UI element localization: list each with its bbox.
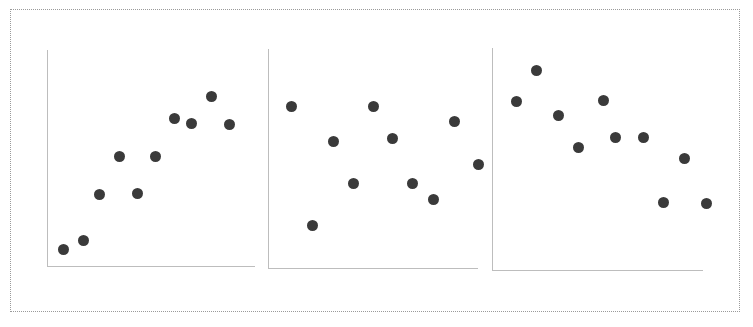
panel-2-x-axis bbox=[268, 268, 478, 269]
data-point bbox=[407, 178, 418, 189]
data-point bbox=[638, 132, 649, 143]
data-point bbox=[328, 136, 339, 147]
data-point bbox=[348, 178, 359, 189]
data-point bbox=[679, 153, 690, 164]
data-point bbox=[473, 159, 484, 170]
data-point bbox=[224, 119, 235, 130]
panel-3-y-axis bbox=[492, 48, 493, 270]
data-point bbox=[553, 110, 564, 121]
data-point bbox=[531, 65, 542, 76]
data-point bbox=[114, 151, 125, 162]
data-point bbox=[132, 188, 143, 199]
data-point bbox=[449, 116, 460, 127]
data-point bbox=[307, 220, 318, 231]
data-point bbox=[428, 194, 439, 205]
data-point bbox=[701, 198, 712, 209]
data-point bbox=[511, 96, 522, 107]
scatterplot-figure bbox=[0, 0, 753, 327]
panel-1-y-axis bbox=[47, 50, 48, 266]
data-point bbox=[186, 118, 197, 129]
panel-3-x-axis bbox=[492, 270, 703, 271]
data-point bbox=[658, 197, 669, 208]
data-point bbox=[573, 142, 584, 153]
data-point bbox=[58, 244, 69, 255]
data-point bbox=[169, 113, 180, 124]
data-point bbox=[598, 95, 609, 106]
data-point bbox=[94, 189, 105, 200]
panel-2-y-axis bbox=[268, 49, 269, 268]
data-point bbox=[78, 235, 89, 246]
panel-1-x-axis bbox=[47, 266, 255, 267]
data-point bbox=[206, 91, 217, 102]
data-point bbox=[286, 101, 297, 112]
data-point bbox=[368, 101, 379, 112]
data-point bbox=[150, 151, 161, 162]
data-point bbox=[610, 132, 621, 143]
data-point bbox=[387, 133, 398, 144]
